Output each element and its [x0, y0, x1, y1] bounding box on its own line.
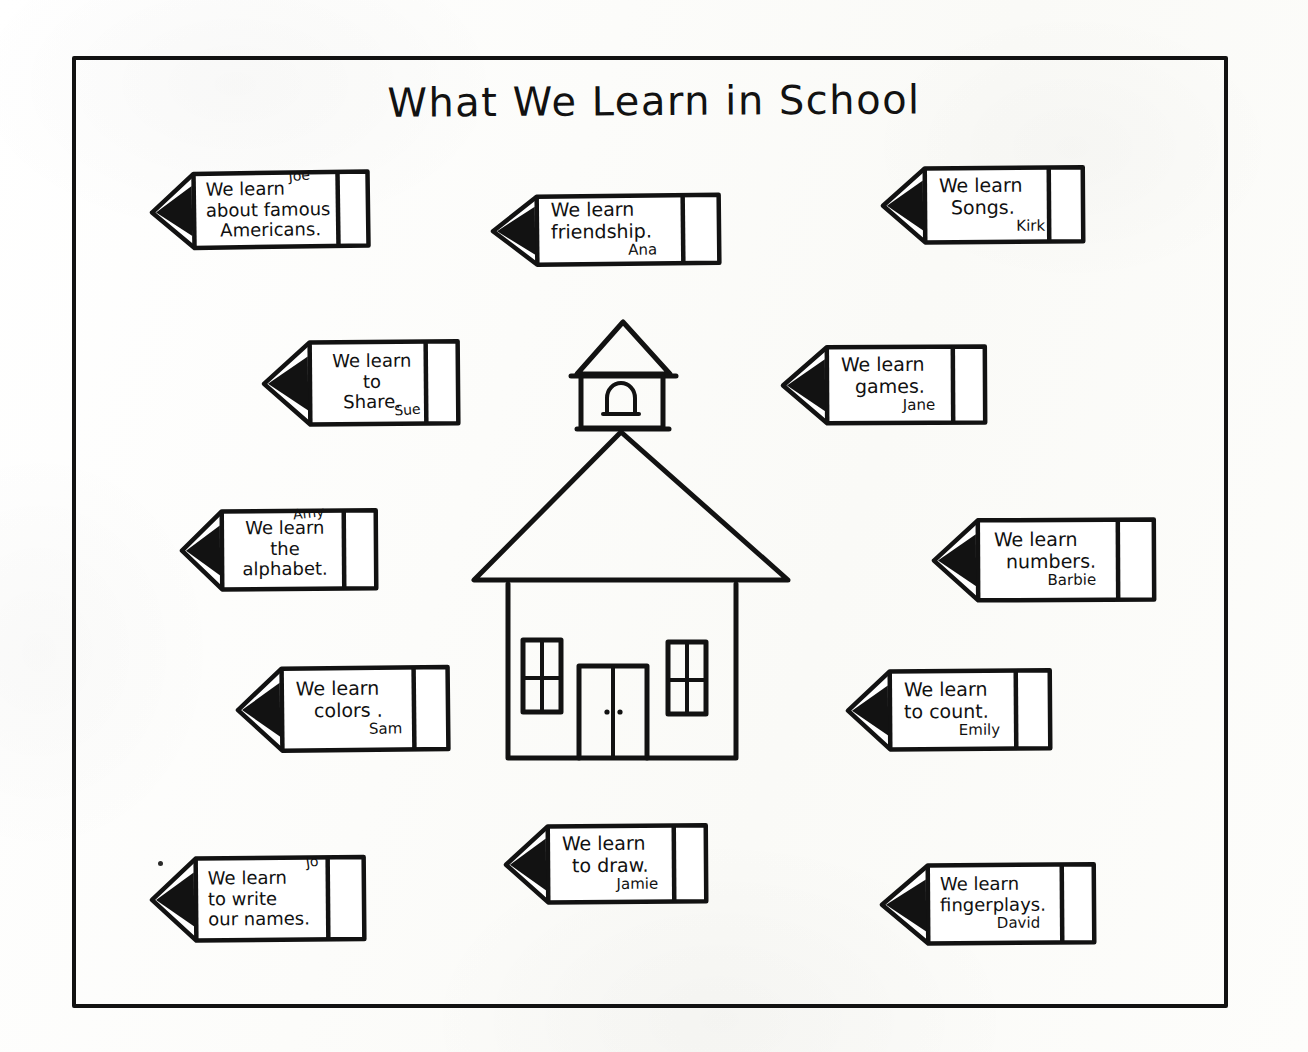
pencil-line: numbers.: [994, 550, 1096, 572]
pencil-line: games.: [841, 376, 925, 398]
pencil-draw: We learn to draw. Jamie: [500, 817, 713, 910]
pencil-line: Americans.: [206, 219, 321, 241]
pencil-line: to count.: [904, 700, 989, 722]
student-name: Emily: [959, 722, 1016, 739]
pencil-line: Songs.: [939, 197, 1015, 219]
pencil-line: We learn: [904, 679, 988, 701]
pencil-line: We learn: [940, 874, 1019, 895]
pencil-line: We learn: [551, 199, 635, 222]
pencil-line: colors .: [296, 699, 383, 722]
student-name: Ana: [628, 242, 683, 259]
pencil-line: fingerplays.: [940, 894, 1046, 915]
pencil-count: We learn to count. Emily: [842, 662, 1057, 757]
pencil-line: to write: [208, 889, 277, 910]
student-name: Sam: [369, 721, 414, 738]
worksheet-page: What We Learn in School: [0, 0, 1308, 1052]
pencil-write-names: We learn to write our names. Jo: [146, 847, 371, 951]
pencil-line: to: [363, 372, 381, 393]
pencil-alphabet: We learn the alphabet. Amy: [176, 502, 383, 599]
belfry-roof-shape: [577, 322, 670, 374]
pencil-line: We learn: [332, 351, 411, 372]
pencil-line: We learn: [296, 678, 380, 701]
pencil-songs: We learn Songs. Kirk: [877, 159, 1090, 250]
pencil-line: We learn: [208, 868, 287, 889]
pencil-line: We learn: [206, 179, 285, 201]
schoolhouse-illustration: [466, 312, 796, 764]
pencil-line: We learn: [939, 175, 1023, 197]
pencil-line: alphabet.: [242, 559, 327, 580]
pencil-share: We learn to Share. Sue: [258, 333, 465, 435]
pencil-line: our names.: [208, 909, 310, 930]
student-name: David: [997, 915, 1062, 932]
pencil-colors: We learn colors . Sam: [231, 659, 454, 761]
pencil-line: We learn: [562, 833, 646, 855]
student-name: Sue: [394, 401, 422, 419]
pencil-famous-americans: We learn about famous Americans. Joe: [145, 161, 378, 258]
pencil-line: friendship.: [551, 220, 652, 243]
pencil-line: Share.: [343, 392, 401, 413]
pencil-line: the: [270, 539, 300, 560]
pencil-numbers: We learn numbers. Barbie: [928, 511, 1161, 612]
door-knob-right: [617, 709, 622, 714]
pencil-games: We learn games. Jane: [777, 338, 991, 431]
main-roof-shape: [474, 432, 788, 580]
student-name: Barbie: [1047, 572, 1118, 589]
page-title: What We Learn in School: [0, 74, 1308, 128]
student-name: Jo: [305, 853, 320, 871]
student-name: Kirk: [1016, 218, 1049, 235]
student-name: Jane: [903, 397, 953, 414]
student-name: Jamie: [616, 876, 674, 893]
pencil-line: We learn: [994, 529, 1078, 551]
door-knob-left: [604, 709, 609, 714]
pencil-friendship: We learn friendship. Ana: [487, 187, 728, 274]
pencil-line: to draw.: [562, 854, 649, 876]
pencil-fingerplays: We learn fingerplays. David: [876, 856, 1101, 952]
pencil-line: We learn: [245, 518, 324, 539]
student-name: Joe: [288, 166, 311, 184]
pencil-line: We learn: [841, 354, 925, 376]
